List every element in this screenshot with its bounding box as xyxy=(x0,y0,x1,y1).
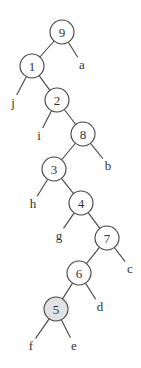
tree-node-6: 6 xyxy=(67,261,91,285)
edge-2-i xyxy=(43,111,52,128)
edge-9-1 xyxy=(40,41,54,57)
node-label: 8 xyxy=(80,127,87,142)
edge-7-c xyxy=(114,248,125,262)
edge-5-e xyxy=(61,320,70,338)
edge-4-g xyxy=(64,213,75,229)
node-label: 5 xyxy=(53,302,60,317)
leaf-label-i: i xyxy=(37,128,41,143)
node-label: 7 xyxy=(104,231,111,246)
tree-node-5: 5 xyxy=(44,297,68,321)
node-label: 2 xyxy=(54,93,61,108)
tree-node-2: 2 xyxy=(45,88,69,112)
node-label: 9 xyxy=(59,25,66,40)
edge-3-4 xyxy=(61,178,73,193)
node-label: 6 xyxy=(76,266,83,281)
node-label: 3 xyxy=(51,162,58,177)
leaf-label-f: f xyxy=(29,338,34,353)
leaf-label-a: a xyxy=(79,57,85,72)
edge-4-7 xyxy=(88,213,100,229)
edge-2-8 xyxy=(64,110,75,125)
node-label: 4 xyxy=(78,196,85,211)
binary-tree-diagram: 912834765 ajibhgcdfe xyxy=(0,0,141,368)
edge-7-6 xyxy=(86,247,99,263)
edge-1-2 xyxy=(39,76,50,91)
node-label: 1 xyxy=(29,59,36,74)
tree-edges xyxy=(17,41,125,338)
edge-8-3 xyxy=(62,143,76,160)
leaf-label-b: b xyxy=(105,158,112,173)
edge-6-5 xyxy=(62,283,72,299)
leaf-label-e: e xyxy=(71,338,77,353)
leaf-label-h: h xyxy=(30,196,37,211)
leaf-label-g: g xyxy=(56,228,63,243)
leaf-label-c: c xyxy=(127,261,133,276)
edge-8-b xyxy=(91,143,103,158)
edge-9-a xyxy=(68,42,77,57)
edge-6-d xyxy=(85,283,95,299)
tree-node-3: 3 xyxy=(42,157,66,181)
leaf-label-d: d xyxy=(97,299,104,314)
tree-node-9: 9 xyxy=(50,20,74,44)
tree-node-4: 4 xyxy=(69,191,93,215)
tree-node-8: 8 xyxy=(71,122,95,146)
edge-3-h xyxy=(37,179,47,196)
leaf-label-j: j xyxy=(10,95,15,110)
edge-1-j xyxy=(17,77,27,95)
tree-node-1: 1 xyxy=(20,54,44,78)
tree-node-7: 7 xyxy=(95,226,119,250)
edge-5-f xyxy=(36,319,50,339)
